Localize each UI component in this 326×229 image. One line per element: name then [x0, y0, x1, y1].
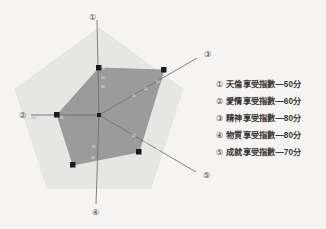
svg-text:30: 30: [101, 85, 105, 89]
legend-marker-3: ③: [216, 110, 223, 127]
svg-text:40: 40: [144, 141, 148, 145]
svg-text:40: 40: [144, 87, 148, 91]
legend-marker-2: ②: [216, 93, 223, 110]
axis-label-3: ③: [204, 50, 211, 59]
axis-label-2: ②: [19, 111, 26, 120]
center-point: [97, 113, 101, 117]
svg-text:30: 30: [92, 145, 96, 149]
svg-text:10: 10: [108, 108, 112, 112]
svg-text:50: 50: [91, 167, 95, 171]
radar-chart-page: 10 20 30 40 50 10 20 30 40 50 10 20 30 4…: [0, 0, 326, 229]
axis-label-1: ①: [89, 13, 96, 22]
svg-text:20: 20: [92, 134, 96, 138]
svg-text:20: 20: [73, 116, 77, 120]
svg-text:30: 30: [132, 134, 136, 138]
svg-text:40: 40: [47, 116, 51, 120]
radar-chart-svg: 10 20 30 40 50 10 20 30 40 50 10 20 30 4…: [0, 0, 226, 229]
svg-text:40: 40: [91, 156, 95, 160]
legend-marker-4: ④: [216, 127, 223, 144]
svg-text:40: 40: [101, 76, 105, 80]
svg-text:50: 50: [156, 148, 160, 152]
legend-item-2: ② 愛情享受指數—60分: [216, 93, 326, 110]
svg-text:20: 20: [120, 127, 124, 131]
legend-label-1: 天倫享受指數—50分: [226, 76, 301, 93]
legend-marker-1: ①: [216, 76, 223, 93]
legend-item-5: ⑤ 成就享受指數—70分: [216, 144, 326, 161]
svg-text:10: 10: [108, 120, 112, 124]
legend-label-3: 精神享受指數—80分: [226, 110, 301, 127]
svg-text:20: 20: [120, 101, 124, 105]
svg-text:50: 50: [156, 80, 160, 84]
svg-text:10: 10: [101, 103, 105, 107]
svg-text:20: 20: [101, 94, 105, 98]
svg-text:10: 10: [86, 116, 90, 120]
legend-item-4: ④ 物質享受指數—80分: [216, 127, 326, 144]
legend-label-5: 成就享受指數—70分: [226, 144, 301, 161]
legend-marker-5: ⑤: [216, 144, 223, 161]
svg-text:30: 30: [60, 116, 64, 120]
axis-label-4: ④: [92, 208, 99, 217]
svg-text:30: 30: [132, 94, 136, 98]
axis-label-5: ⑤: [203, 171, 210, 180]
legend-item-3: ③ 精神享受指數—80分: [216, 110, 326, 127]
axis-end-label: 100: [31, 116, 36, 120]
svg-text:50: 50: [101, 67, 105, 71]
legend: ① 天倫享受指數—50分 ② 愛情享受指數—60分 ③ 精神享受指數—80分 ④…: [216, 76, 326, 161]
legend-label-4: 物質享受指數—80分: [226, 127, 301, 144]
radar-chart-area: 10 20 30 40 50 10 20 30 40 50 10 20 30 4…: [0, 0, 226, 229]
svg-text:10: 10: [92, 123, 96, 127]
legend-item-1: ① 天倫享受指數—50分: [216, 76, 326, 93]
legend-label-2: 愛情享受指數—60分: [226, 93, 301, 110]
